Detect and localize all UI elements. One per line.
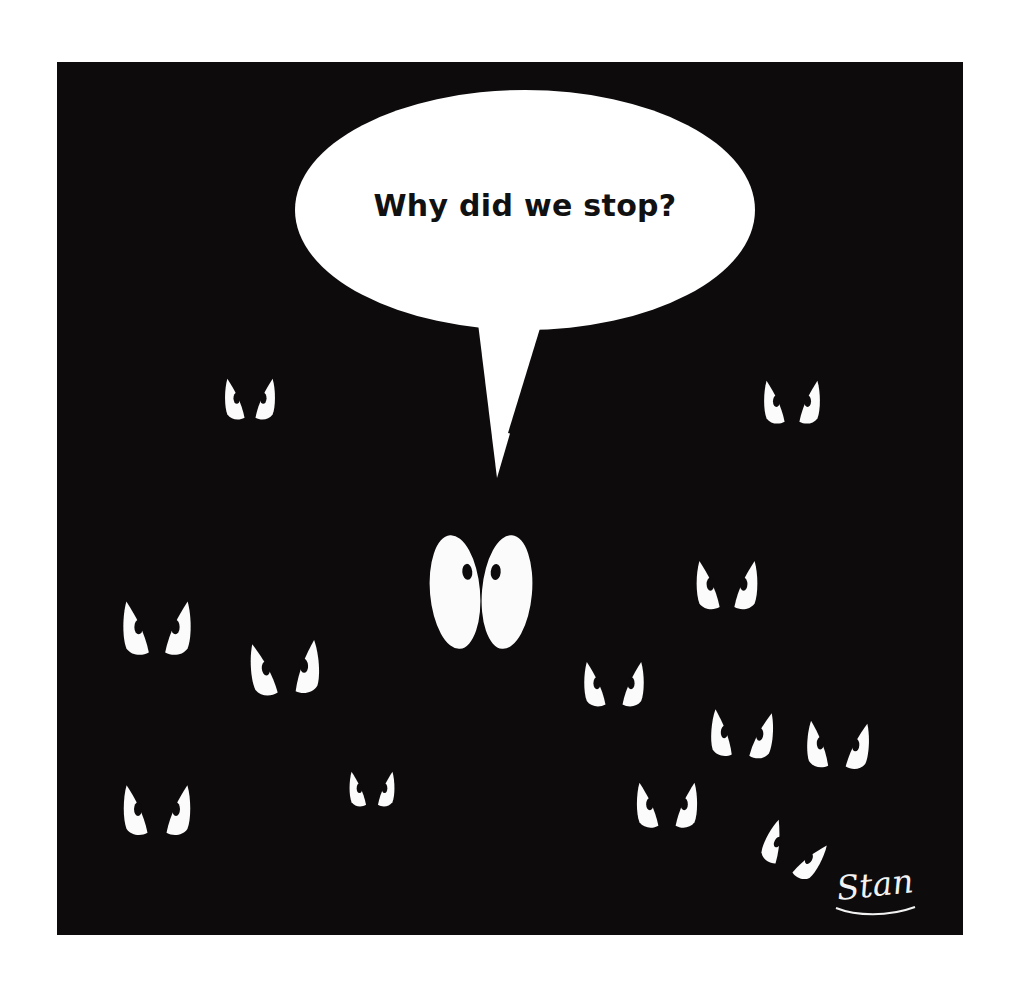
- cartoon-illustration: Why did we stop?: [0, 0, 1017, 985]
- cartoon-panel-container: Why did we stop?: [0, 0, 1017, 985]
- speech-bubble-text: Why did we stop?: [373, 188, 676, 223]
- signature-text: Stan: [835, 861, 915, 908]
